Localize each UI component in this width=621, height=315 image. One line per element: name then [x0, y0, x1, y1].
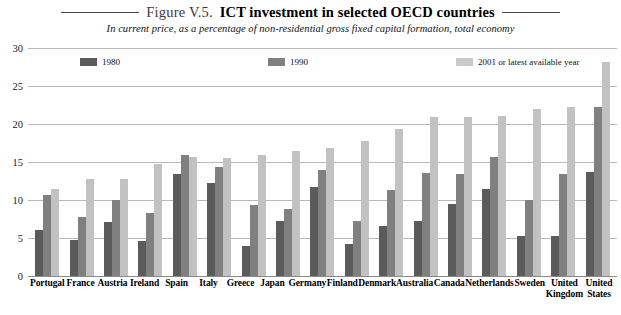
bar-group — [133, 48, 167, 276]
x-axis-label: Finland — [326, 278, 358, 300]
bar[interactable] — [181, 155, 189, 276]
x-axis-label: Australia — [396, 278, 433, 300]
x-axis-label: Canada — [433, 278, 465, 300]
bar[interactable] — [35, 230, 43, 276]
x-axis-label: Japan — [256, 278, 288, 300]
gridline-0 — [28, 276, 617, 277]
x-axis-label: Greece — [224, 278, 256, 300]
bars-layer — [28, 48, 617, 276]
x-axis-label: Ireland — [129, 278, 161, 300]
bar[interactable] — [78, 217, 86, 276]
bar[interactable] — [586, 172, 594, 276]
title-rule-left — [61, 12, 139, 13]
bar[interactable] — [464, 117, 472, 276]
bar-group — [443, 48, 477, 276]
bar[interactable] — [104, 222, 112, 276]
bar[interactable] — [215, 167, 223, 276]
bar[interactable] — [43, 195, 51, 276]
bar[interactable] — [120, 179, 128, 276]
x-axis-label: Austria — [97, 278, 129, 300]
bar-group — [202, 48, 236, 276]
bar[interactable] — [490, 157, 498, 276]
bar-group — [581, 48, 615, 276]
bar[interactable] — [533, 109, 541, 276]
x-axis-label: Spain — [161, 278, 193, 300]
bar[interactable] — [242, 246, 250, 276]
bar-group — [64, 48, 98, 276]
bar[interactable] — [292, 151, 300, 276]
bar[interactable] — [189, 157, 197, 276]
bar-group — [305, 48, 339, 276]
bar[interactable] — [456, 174, 464, 276]
bar[interactable] — [207, 183, 215, 276]
figure-title-row: Figure V.5. ICT investment in selected O… — [0, 0, 621, 20]
bar[interactable] — [602, 62, 610, 276]
bar[interactable] — [112, 200, 120, 276]
bar[interactable] — [594, 107, 602, 276]
bar-group — [546, 48, 580, 276]
x-axis-label: Denmark — [358, 278, 396, 300]
bar[interactable] — [138, 241, 146, 276]
bar[interactable] — [284, 209, 292, 276]
bar-group — [236, 48, 270, 276]
bar[interactable] — [223, 158, 231, 276]
x-axis-label: Italy — [193, 278, 225, 300]
bar[interactable] — [258, 155, 266, 276]
bar[interactable] — [498, 116, 506, 276]
bar[interactable] — [430, 117, 438, 276]
y-tick-label-15: 15 — [13, 157, 24, 168]
title-rule-right — [502, 12, 560, 13]
bar[interactable] — [482, 189, 490, 276]
x-axis-labels: PortugalFranceAustriaIrelandSpainItalyGr… — [28, 278, 617, 300]
bar[interactable] — [154, 164, 162, 276]
bar[interactable] — [146, 213, 154, 276]
bar-group — [340, 48, 374, 276]
figure-subtitle: In current price, as a percentage of non… — [0, 23, 621, 34]
bar[interactable] — [310, 187, 318, 276]
bar[interactable] — [379, 226, 387, 276]
bar[interactable] — [318, 170, 326, 276]
bar[interactable] — [173, 174, 181, 276]
bar[interactable] — [387, 190, 395, 276]
bar[interactable] — [448, 204, 456, 276]
bar[interactable] — [395, 129, 403, 276]
bar[interactable] — [525, 200, 533, 276]
bar[interactable] — [70, 240, 78, 276]
y-tick-label-5: 5 — [18, 233, 23, 244]
bar-group — [30, 48, 64, 276]
x-axis-label: Portugal — [30, 278, 65, 300]
y-tick-label-25: 25 — [13, 81, 24, 92]
figure-title: ICT investment in selected OECD countrie… — [220, 4, 495, 21]
figure-number: Figure V.5. — [146, 4, 213, 21]
x-axis-label: France — [65, 278, 97, 300]
bar[interactable] — [353, 221, 361, 276]
y-tick-label-20: 20 — [13, 119, 24, 130]
bar-group — [168, 48, 202, 276]
bar[interactable] — [86, 179, 94, 276]
x-axis-label: Germany — [288, 278, 326, 300]
chart-area: 051015202530 1980 1990 2001 or latest av… — [0, 38, 621, 313]
x-axis-label: Sweden — [514, 278, 546, 300]
bar[interactable] — [250, 205, 258, 276]
bar[interactable] — [551, 236, 559, 276]
x-axis-label: UnitedKingdom — [546, 278, 583, 300]
bar-group — [271, 48, 305, 276]
y-tick-label-30: 30 — [13, 43, 24, 54]
bar-group — [374, 48, 408, 276]
bar[interactable] — [361, 141, 369, 276]
bar[interactable] — [51, 189, 59, 276]
bar[interactable] — [414, 221, 422, 276]
bar-group — [477, 48, 511, 276]
y-tick-label-0: 0 — [18, 271, 23, 282]
bar[interactable] — [567, 107, 575, 276]
x-axis-label: UnitedStates — [583, 278, 615, 300]
bar[interactable] — [422, 173, 430, 276]
bar-group — [408, 48, 442, 276]
bar[interactable] — [345, 244, 353, 276]
y-tick-label-10: 10 — [13, 195, 24, 206]
bar[interactable] — [517, 236, 525, 276]
bar[interactable] — [326, 148, 334, 276]
bar[interactable] — [276, 221, 284, 276]
x-axis-label: Netherlands — [465, 278, 514, 300]
bar[interactable] — [559, 174, 567, 276]
